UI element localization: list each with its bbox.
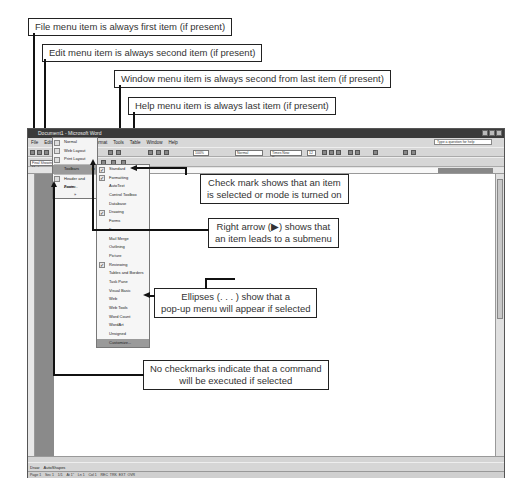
checkmark-icon: ✓ [99, 210, 105, 216]
toolbar-item-web-tools[interactable]: Web Tools [97, 304, 149, 313]
align-left-icon[interactable] [348, 150, 353, 155]
menu-bar: File Edit View Insert Format Tools Table… [28, 138, 504, 147]
save-icon[interactable] [44, 150, 49, 155]
toolbar-item-drawing[interactable]: ✓Drawing [97, 208, 149, 217]
align-center-icon[interactable] [355, 150, 360, 155]
toolbar-item-mail-merge[interactable]: Mail Merge [97, 235, 149, 244]
style-select[interactable]: Normal [235, 150, 263, 156]
minimize-icon[interactable] [482, 130, 488, 136]
draw-menu[interactable]: Draw [30, 465, 39, 470]
toolbar-item-unsigned[interactable]: Unsigned [97, 330, 149, 339]
toolbar-item-autotext[interactable]: AutoText [97, 182, 149, 191]
status-at: At 1" [66, 473, 73, 477]
leader-help [133, 112, 135, 129]
columns-icon[interactable] [156, 150, 161, 155]
status-page: Page 1 [30, 473, 41, 477]
toolbar-item-outlining[interactable]: Outlining [97, 243, 149, 252]
view-menu-item-header-footer[interactable]: Header and Footer [53, 175, 97, 184]
autoshapes-menu[interactable]: AutoShapes [44, 465, 66, 470]
checkmark-icon: ✓ [99, 175, 105, 181]
help-search-input[interactable]: Type a question for help [434, 139, 492, 145]
redo-icon[interactable] [116, 150, 121, 155]
leader-nocheck-v [53, 186, 55, 375]
web-layout-icon [54, 148, 60, 154]
callout-help-menu: Help menu item is always last item (if p… [128, 97, 336, 115]
toolbar-item-wordart[interactable]: WordArt [97, 321, 149, 330]
menu-help[interactable]: Help [166, 138, 181, 147]
view-menu-item-zoom[interactable]: Zoom... [53, 183, 97, 192]
leader-arrow-v [92, 164, 94, 230]
callout-right-arrow: Right arrow (▶) shows that an item leads… [208, 218, 339, 248]
toolbar-item-visual-basic[interactable]: Visual Basic [97, 287, 149, 296]
print-layout-icon [54, 157, 60, 163]
arrowhead-check [130, 165, 137, 171]
font-color-icon[interactable] [411, 150, 416, 155]
menu-tools[interactable]: Tools [110, 138, 127, 147]
callout-check-mark: Check mark shows that an item is selecte… [200, 174, 349, 204]
open-icon[interactable] [37, 150, 42, 155]
arrowhead-ellipses [143, 292, 150, 298]
toolbar-item-formatting[interactable]: ✓Formatting [97, 174, 149, 183]
normal-view-icon [54, 140, 60, 146]
status-pages: 1/1 [58, 473, 63, 477]
leader-check-v [185, 167, 187, 175]
maximize-icon[interactable] [489, 130, 495, 136]
toolbar-item-forms[interactable]: Forms [97, 217, 149, 226]
undo-icon[interactable] [108, 150, 113, 155]
underline-icon[interactable] [336, 150, 341, 155]
toolbar-item-tables-borders[interactable]: Tables and Borders [97, 269, 149, 278]
view-menu-expand[interactable]: » [53, 192, 97, 198]
callout-ellipses: Ellipses (. . . ) show that a pop-up men… [154, 288, 317, 318]
toolbar-item-task-pane[interactable]: Task Pane [97, 278, 149, 287]
arrowhead-nocheck [51, 181, 57, 187]
status-col: Col 1 [88, 473, 96, 477]
arrowhead-arrow [90, 159, 96, 165]
status-ovr: OVR [128, 473, 136, 477]
leader-arrow-h [92, 229, 209, 231]
view-menu-item-toolbars[interactable]: Toolbars ▶ [53, 165, 97, 174]
checkmark-icon: ✓ [99, 262, 105, 268]
font-size-select[interactable]: 12 [307, 150, 316, 156]
drawing-toolbar: Draw AutoShapes [28, 462, 504, 471]
status-bar: Page 1 Sec 1 1/1 At 1" Ln 1 Col 1 REC TR… [28, 471, 504, 478]
font-select[interactable]: Times New Roman [270, 150, 302, 156]
close-icon[interactable] [496, 130, 502, 136]
leader-ellipses-top [205, 278, 235, 280]
italic-icon[interactable] [329, 150, 334, 155]
leader-edit [44, 59, 46, 129]
leader-nocheck-h [53, 374, 144, 376]
toolbar-item-control-toolbox[interactable]: Control Toolbox [97, 191, 149, 200]
leader-window [119, 85, 121, 129]
toolbar-item-reviewing[interactable]: ✓Reviewing [97, 261, 149, 270]
toolbar-item-web[interactable]: Web [97, 295, 149, 304]
toolbar-item-picture[interactable]: Picture [97, 252, 149, 261]
status-ext: EXT [119, 473, 126, 477]
table-icon[interactable] [148, 150, 153, 155]
highlight-icon[interactable] [403, 150, 408, 155]
vertical-ruler [28, 174, 35, 456]
toolbar-item-word-count[interactable]: Word Count [97, 313, 149, 322]
standard-toolbar: 100% Normal Times New Roman 12 [28, 147, 504, 157]
status-trk: TRK [110, 473, 117, 477]
callout-window-menu: Window menu item is always second from l… [114, 70, 391, 88]
view-menu-item-web-layout[interactable]: Web Layout [53, 147, 97, 156]
title-bar: Document1 - Microsoft Word [28, 129, 504, 138]
leader-check-h [136, 167, 186, 169]
callout-no-checkmarks: No checkmarks indicate that a command wi… [143, 360, 329, 390]
callout-file-menu: File menu item is always first item (if … [28, 18, 232, 36]
menu-window[interactable]: Window [144, 138, 166, 147]
new-icon[interactable] [30, 150, 35, 155]
expand-chevron-icon: » [74, 192, 76, 197]
menu-file[interactable]: File [28, 138, 41, 147]
toolbar-item-database[interactable]: Database [97, 200, 149, 209]
drawing-icon[interactable] [164, 150, 169, 155]
zoom-select[interactable]: 100% [193, 150, 209, 156]
vertical-scrollbar[interactable] [495, 174, 504, 456]
menu-table[interactable]: Table [127, 138, 144, 147]
scroll-thumb[interactable] [497, 179, 503, 319]
bold-icon[interactable] [322, 150, 327, 155]
checkmark-icon: ✓ [99, 167, 105, 173]
bullets-icon[interactable] [373, 150, 378, 155]
toolbar-item-customize[interactable]: Customize... [97, 339, 149, 348]
view-menu-item-normal[interactable]: Normal [53, 138, 97, 147]
